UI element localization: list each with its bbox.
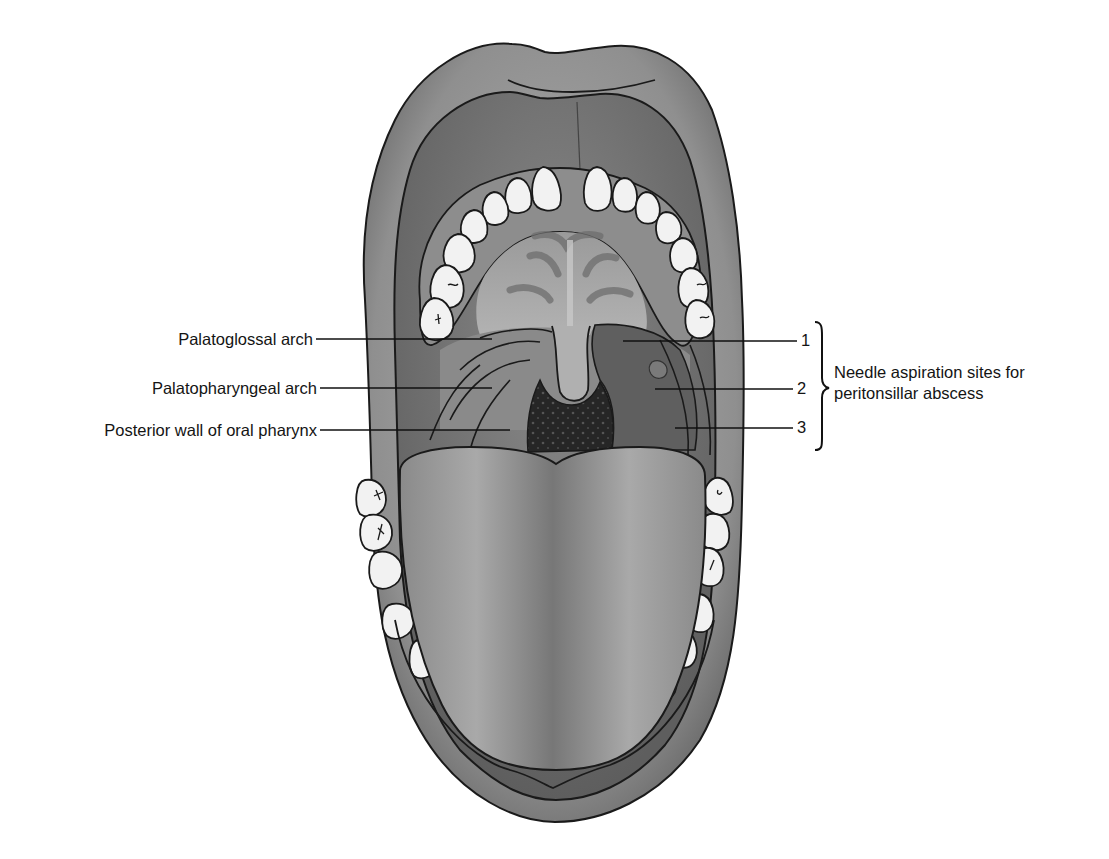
needle-aspiration-caption: Needle aspiration sites for peritonsilla… [834, 362, 1025, 404]
label-palatoglossal-arch: Palatoglossal arch [178, 329, 313, 349]
caption-line-2: peritonsillar abscess [834, 383, 1025, 404]
label-palatopharyngeal-arch: Palatopharyngeal arch [152, 378, 317, 398]
caption-line-1: Needle aspiration sites for [834, 362, 1025, 383]
site-number-1: 1 [801, 330, 810, 350]
site-number-3: 3 [797, 417, 806, 437]
abscess-spot [649, 361, 667, 379]
grouping-bracket [815, 322, 829, 450]
label-posterior-wall-oral-pharynx: Posterior wall of oral pharynx [104, 420, 317, 440]
site-number-2: 2 [797, 378, 806, 398]
mouth-anatomy-figure: Palatoglossal arch Palatopharyngeal arch… [0, 0, 1109, 859]
